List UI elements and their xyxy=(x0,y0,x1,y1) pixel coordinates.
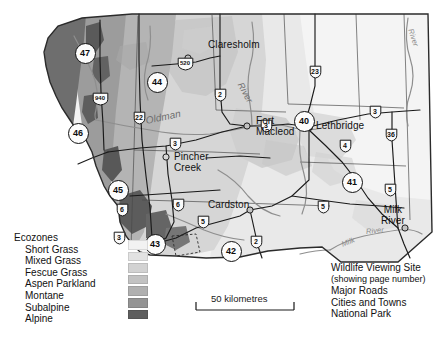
wildlife-viewing-site-46[interactable]: 46 xyxy=(68,123,89,144)
wildlife-viewing-site-number: 41 xyxy=(347,178,357,187)
symbol-legend-item-cities-and-towns: Cities and Towns xyxy=(331,297,426,309)
scale-bar-label: 50 kilometres xyxy=(211,293,268,304)
ecozone-swatch-short-grass xyxy=(128,240,148,250)
ecozone-legend-item-subalpine: Subalpine xyxy=(25,302,96,314)
highway-shield-label: 940 xyxy=(92,92,109,104)
ecozone-legend-item-aspen-parkland: Aspen Parkland xyxy=(25,278,96,290)
city-label-claresholm: Claresholm xyxy=(208,40,260,51)
highway-shield-label: 520 xyxy=(177,57,194,69)
wildlife-viewing-site-number: 46 xyxy=(73,129,83,138)
city-label-pincher-creek: Pincher Creek xyxy=(174,152,209,173)
river-label-milk-river-water: River xyxy=(365,225,384,237)
highway-shield-520-1: 520 xyxy=(177,57,194,71)
ecozone-legend-item-alpine: Alpine xyxy=(25,313,96,325)
city-label-fort-macleod-line2: Macleod xyxy=(256,127,295,138)
wildlife-viewing-site-number: 45 xyxy=(113,186,123,195)
ecozone-swatch-subalpine xyxy=(128,298,148,308)
highway-shield-label: 4 xyxy=(339,139,352,151)
wildlife-viewing-site-41[interactable]: 41 xyxy=(342,172,363,193)
highway-shield-label: 5 xyxy=(317,200,330,212)
highway-shield-2-3: 2 xyxy=(214,88,227,102)
symbol-legend-item-wildlife-viewing-site: Wildlife Viewing Site xyxy=(331,262,426,274)
highway-shield-4-12: 4 xyxy=(339,139,352,153)
highway-shield-22-2: 22 xyxy=(133,111,146,125)
highway-shield-label: 2 xyxy=(214,88,227,100)
symbol-legend: Wildlife Viewing Site (showing page numb… xyxy=(331,262,426,320)
ecozone-swatch-fescue-grass xyxy=(128,263,148,273)
highway-shield-label: 36 xyxy=(385,128,398,140)
ecozone-legend-item-fescue-grass: Fescue Grass xyxy=(25,267,96,279)
highway-shield-label: 22 xyxy=(133,111,146,123)
highway-shield-label: 3 xyxy=(169,137,182,149)
highway-shield-label: 2 xyxy=(250,235,263,247)
highway-shield-940-0: 940 xyxy=(92,92,109,106)
map-page: 940520222233366525433653 474446404541434… xyxy=(0,0,448,340)
highway-shield-5-15: 5 xyxy=(384,183,397,197)
highway-shield-label: 5 xyxy=(197,215,210,227)
highway-shield-label: 3 xyxy=(369,105,382,117)
wildlife-viewing-site-number: 47 xyxy=(80,49,90,58)
highway-shield-label: 5 xyxy=(384,183,397,195)
city-label-fort-macleod-line1: Fort xyxy=(256,116,295,127)
highway-shield-3-6: 3 xyxy=(169,137,182,151)
highway-shield-label: 6 xyxy=(172,198,185,210)
wildlife-viewing-site-number: 40 xyxy=(299,117,309,126)
wildlife-viewing-site-42[interactable]: 42 xyxy=(221,241,242,262)
symbol-legend-item-major-roads: Major Roads xyxy=(331,285,426,297)
wildlife-viewing-site-number: 43 xyxy=(150,240,160,249)
city-label-pincher-creek-line1: Pincher xyxy=(174,152,209,163)
city-label-milk-river-line1: Milk xyxy=(381,205,405,216)
highway-shield-6-8: 6 xyxy=(116,203,129,217)
wildlife-viewing-site-44[interactable]: 44 xyxy=(147,72,168,93)
ecozone-legend-item-mixed-grass: Mixed Grass xyxy=(25,255,96,267)
symbol-legend-item-page-number-note: (showing page number) xyxy=(331,274,426,286)
ecozone-swatch-mixed-grass xyxy=(128,252,148,262)
highway-shield-36-14: 36 xyxy=(385,128,398,142)
city-label-lethbridge: Lethbridge xyxy=(316,121,364,132)
ecozone-swatch-alpine xyxy=(128,310,148,320)
wildlife-viewing-site-number: 42 xyxy=(226,247,236,256)
highway-shield-3-13: 3 xyxy=(369,105,382,119)
highway-shield-3-16: 3 xyxy=(113,231,126,245)
city-label-cardston: Cardston xyxy=(208,200,249,211)
city-label-milk-river: Milk River xyxy=(381,205,405,226)
wildlife-viewing-site-47[interactable]: 47 xyxy=(75,43,96,64)
wildlife-viewing-site-40[interactable]: 40 xyxy=(294,111,315,132)
highway-shield-5-11: 5 xyxy=(317,200,330,214)
symbol-legend-item-national-park: National Park xyxy=(331,308,426,320)
ecozone-legend-title: Ecozones xyxy=(14,232,96,244)
ecozone-legend: Ecozones Short Grass Mixed Grass Fescue … xyxy=(14,232,96,325)
highway-shield-label: 23 xyxy=(309,65,322,77)
ecozone-swatch-montane xyxy=(128,286,148,296)
city-label-fort-macleod: Fort Macleod xyxy=(256,116,295,137)
highway-shield-label: 6 xyxy=(116,203,129,215)
highway-shield-23-4: 23 xyxy=(309,65,322,79)
city-label-milk-river-line2: River xyxy=(381,216,405,227)
highway-shield-6-7: 6 xyxy=(172,198,185,212)
ecozone-legend-item-short-grass: Short Grass xyxy=(25,244,96,256)
highway-shield-2-10: 2 xyxy=(250,235,263,249)
ecozone-legend-item-montane: Montane xyxy=(25,290,96,302)
highway-shield-5-9: 5 xyxy=(197,215,210,229)
city-label-pincher-creek-line2: Creek xyxy=(174,163,209,174)
wildlife-viewing-site-45[interactable]: 45 xyxy=(108,180,129,201)
highway-shield-label: 3 xyxy=(113,231,126,243)
ecozone-swatch-aspen-parkland xyxy=(128,275,148,285)
wildlife-viewing-site-number: 44 xyxy=(152,78,162,87)
